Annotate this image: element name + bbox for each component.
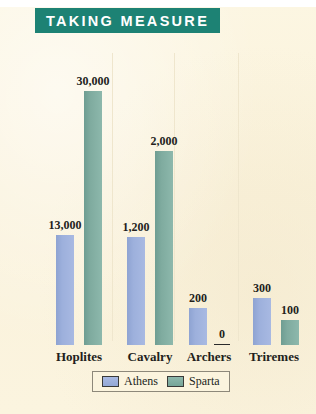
group-separator [112, 53, 113, 341]
bar-value-archers-sparta: 0 [219, 327, 225, 342]
bar-value-cavalry-athens: 1,200 [123, 220, 150, 235]
bar-triremes-sparta[interactable] [281, 320, 299, 345]
legend-item-sparta[interactable]: Sparta [167, 374, 220, 389]
legend-item-athens[interactable]: Athens [102, 374, 158, 389]
legend-swatch-sparta [167, 376, 184, 387]
bar-value-hoplites-athens: 13,000 [49, 218, 82, 233]
bar-value-archers-athens: 200 [189, 291, 207, 306]
bar-triremes-athens[interactable] [253, 298, 271, 345]
bars-triremes: 300 100 [244, 49, 304, 345]
bar-hoplites-athens[interactable] [56, 235, 74, 345]
bar-value-triremes-athens: 300 [253, 281, 271, 296]
bar-group-archers: 200 0 Archers [180, 49, 238, 345]
bars-archers: 200 0 [180, 49, 238, 345]
legend-label-athens: Athens [124, 374, 158, 389]
plot-area: 13,000 30,000 Hoplites 1,200 2,000 [0, 45, 316, 345]
chart-title-banner: TAKING MEASURE [35, 8, 220, 33]
category-label-hoplites: Hoplites [47, 349, 111, 365]
category-label-triremes: Triremes [244, 349, 304, 365]
bar-group-triremes: 300 100 Triremes [244, 49, 304, 345]
bar-archers-sparta[interactable] [214, 344, 230, 345]
bar-hoplites-sparta[interactable] [84, 91, 102, 345]
legend-swatch-athens [102, 376, 119, 387]
bar-value-triremes-sparta: 100 [281, 303, 299, 318]
bar-group-cavalry: 1,200 2,000 Cavalry [118, 49, 182, 345]
category-label-cavalry: Cavalry [118, 349, 182, 365]
bar-archers-athens[interactable] [189, 308, 207, 345]
legend-label-sparta: Sparta [189, 374, 220, 389]
bar-group-hoplites: 13,000 30,000 Hoplites [47, 49, 111, 345]
bars-cavalry: 1,200 2,000 [118, 49, 182, 345]
chart-title: TAKING MEASURE [46, 13, 209, 29]
bar-value-cavalry-sparta: 2,000 [151, 134, 178, 149]
bar-cavalry-athens[interactable] [127, 237, 145, 345]
top-white-strip [0, 0, 316, 7]
chart-legend: Athens Sparta [92, 371, 230, 392]
category-label-archers: Archers [180, 349, 238, 365]
bar-value-hoplites-sparta: 30,000 [77, 74, 110, 89]
group-separator [238, 53, 239, 341]
bars-hoplites: 13,000 30,000 [47, 49, 111, 345]
chart-figure: TAKING MEASURE 13,000 30,000 Hoplites [0, 0, 316, 414]
bar-cavalry-sparta[interactable] [155, 151, 173, 345]
